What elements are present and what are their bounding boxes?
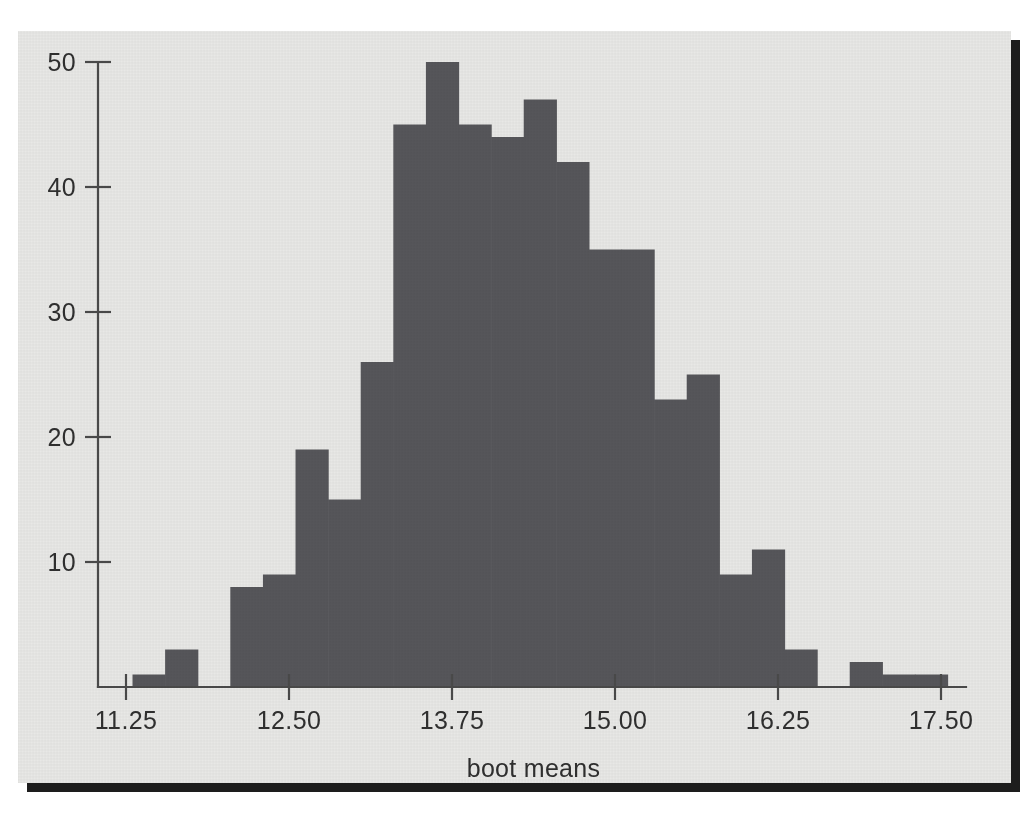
y-tick-label: 30 [47, 298, 76, 326]
histogram-bar [556, 162, 589, 687]
screenshot-root: 102030405011.2512.5013.7515.0016.2517.50… [0, 0, 1034, 827]
histogram-bar [263, 575, 296, 688]
x-tick-label: 13.75 [420, 706, 485, 734]
histogram-bar [882, 675, 915, 688]
x-tick-label: 15.00 [583, 706, 648, 734]
histogram-bars [133, 62, 949, 687]
histogram-bar [393, 125, 426, 688]
histogram-bar [361, 362, 394, 687]
histogram-bar [785, 650, 818, 688]
histogram-bar [133, 675, 166, 688]
histogram-bar [524, 100, 557, 688]
y-tick-label: 50 [47, 48, 76, 76]
histogram-bar [230, 587, 263, 687]
y-axis-ticks: 1020304050 [47, 48, 111, 576]
histogram-chart: 102030405011.2512.5013.7515.0016.2517.50… [18, 31, 1011, 783]
y-tick-label: 10 [47, 548, 76, 576]
histogram-bar [165, 650, 198, 688]
x-tick-label: 16.25 [746, 706, 811, 734]
histogram-bar [491, 137, 524, 687]
figure-panel: 102030405011.2512.5013.7515.0016.2517.50… [18, 31, 1011, 783]
x-tick-label: 12.50 [257, 706, 322, 734]
histogram-bar [296, 450, 329, 688]
x-axis-title: boot means [467, 754, 601, 782]
histogram-bar [654, 400, 687, 688]
histogram-bar [622, 250, 655, 688]
histogram-bar [850, 662, 883, 687]
y-tick-label: 20 [47, 423, 76, 451]
x-tick-label: 17.50 [909, 706, 974, 734]
histogram-bar [328, 500, 361, 688]
x-tick-label: 11.25 [95, 706, 158, 734]
histogram-bar [719, 575, 752, 688]
histogram-bar [915, 675, 948, 688]
histogram-bar [752, 550, 785, 688]
histogram-bar [459, 125, 492, 688]
plot-area: 102030405011.2512.5013.7515.0016.2517.50… [18, 31, 1011, 783]
histogram-bar [589, 250, 622, 688]
y-tick-label: 40 [47, 173, 76, 201]
histogram-bar [687, 375, 720, 688]
histogram-bar [426, 62, 459, 687]
